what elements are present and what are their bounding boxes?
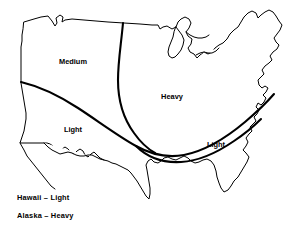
us-zone-map-figure: Medium Heavy Light Light Hawaii – Light … — [0, 0, 301, 234]
zone-label-medium: Medium — [59, 57, 87, 66]
map-svg: Medium Heavy Light Light Hawaii – Light … — [0, 0, 301, 234]
zone-label-light-southeast: Light — [207, 140, 226, 149]
legend-entry-alaska: Alaska – Heavy — [17, 211, 74, 220]
zone-label-heavy: Heavy — [161, 92, 184, 101]
california-coast-detail — [20, 143, 55, 189]
us-coastline-outline — [20, 10, 282, 199]
legend-entry-hawaii: Hawaii – Light — [17, 193, 70, 202]
legend: Hawaii – Light Alaska – Heavy — [17, 193, 74, 220]
zone-label-light-west: Light — [64, 125, 83, 134]
